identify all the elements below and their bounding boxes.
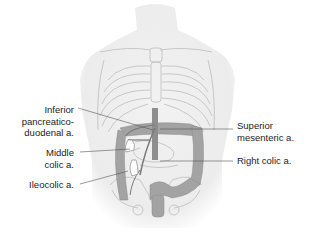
label-superior-mesenteric-artery: Superior mesenteric a. — [237, 120, 294, 143]
label-ileocolic-artery: Ileocolic a. — [0, 179, 74, 191]
label-right-colic-artery: Right colic a. — [237, 155, 291, 167]
label-middle-colic-artery: Middle colic a. — [0, 147, 74, 170]
label-inferior-pancreaticoduodenal-artery: Inferior pancreatico- duodenal a. — [0, 104, 74, 139]
